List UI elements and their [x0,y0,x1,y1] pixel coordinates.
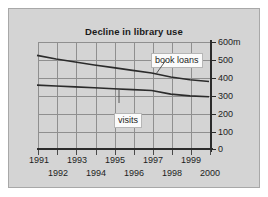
y-tick-300 [212,96,216,97]
gridline-v-1996 [134,42,135,149]
page-title: Decline in library use [9,26,259,37]
y-tick-label-300: 300 [218,92,233,101]
y-tick-500 [212,60,216,61]
x-tick-1994 [96,150,97,155]
x-tick-1996 [134,150,135,155]
x-tick-label-1995: 1995 [105,156,125,165]
series-label-book-loans: book loans [151,53,203,68]
x-tick-label-1998: 1998 [162,169,182,178]
y-tick-label-400: 400 [218,74,233,83]
gridline-h-600 [38,42,210,43]
y-tick-400 [212,78,216,79]
x-axis [37,148,213,150]
gridline-v-1992 [57,42,58,149]
y-tick-label-600: 600m [218,38,241,47]
series-label-visits: visits [114,113,142,128]
y-tick-0 [212,149,216,150]
y-tick-100 [212,132,216,133]
x-tick-label-2000: 2000 [200,169,220,178]
x-tick-label-1992: 1992 [48,169,68,178]
x-tick-2000 [210,150,211,155]
x-tick-label-1996: 1996 [124,169,144,178]
gridline-h-400 [38,78,210,79]
x-tick-1992 [57,150,58,155]
gridline-h-300 [38,96,210,97]
gridline-v-1991 [38,42,39,149]
x-tick-1998 [172,150,173,155]
x-tick-label-1991: 1991 [29,156,49,165]
y-tick-label-500: 500 [218,56,233,65]
gridline-v-1994 [96,42,97,149]
x-tick-label-1994: 1994 [86,169,106,178]
x-tick-label-1993: 1993 [67,156,87,165]
y-tick-label-200: 200 [218,110,233,119]
y-tick-label-100: 100 [218,128,233,137]
y-tick-200 [212,114,216,115]
screenshot-root: Decline in library use [0,0,268,197]
gridline-v-1995 [115,42,116,149]
gridline-v-1993 [76,42,77,149]
gridline-h-100 [38,132,210,133]
x-tick-label-1997: 1997 [143,156,163,165]
y-tick-label-0: 0 [218,145,223,154]
chart-panel: Decline in library use [8,8,260,188]
y-tick-600 [212,42,216,43]
x-tick-label-1999: 1999 [181,156,201,165]
